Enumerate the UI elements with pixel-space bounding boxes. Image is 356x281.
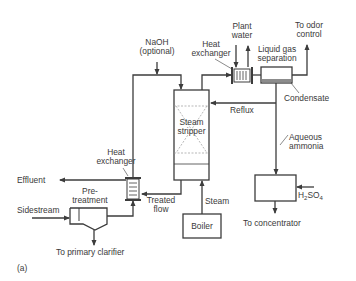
reflux-label: Reflux [230,106,254,115]
odor-control-label: To odor control [289,21,329,39]
pretreatment-label-line2: treatment [68,196,112,205]
plant-water-label: Plant water [225,22,259,40]
treated-flow-line2: flow [144,205,178,214]
plant-water-line2: water [225,31,259,40]
steam-label: Steam [205,197,229,206]
to-concentrator-label: To concentrator [243,219,301,228]
lgs-label-line2: separation [253,54,301,63]
stripper-label-line2: stripper [174,127,209,136]
heat-exchanger-bottom [125,178,141,200]
h2so4-label: H2SO4 [298,191,323,200]
overhead-vapor-line [202,75,231,90]
effluent-label: Effluent [17,176,45,185]
aqueous-ammonia-label: Aqueous ammonia [289,133,323,151]
h2so4-sub-4: 4 [320,195,323,201]
heat-exchanger-top [232,67,252,84]
pretreatment-tank [70,208,107,230]
heat-exchanger-bottom-label: Heat exchanger [95,148,137,166]
figure-label: (a) [17,264,27,273]
condensate-label: Condensate [284,94,329,103]
naoh-label: NaOH (optional) [136,38,178,56]
hx-bottom-label-line2: exchanger [95,157,137,166]
odor-control-line2: control [289,30,329,39]
to-primary-clarifier-label: To primary clarifier [56,248,124,257]
boiler-label: Boiler [183,222,221,231]
hx-top-label-line2: exchanger [190,49,232,58]
heat-exchanger-top-label: Heat exchanger [190,40,232,58]
acid-absorption-tank [255,175,296,201]
treated-flow-label: Treated flow [144,196,178,214]
treated-flow-line [142,180,181,194]
naoh-label-line2: (optional) [136,47,178,56]
liquid-gas-separation-label: Liquid gas separation [253,45,301,63]
steam-stripper-label: Steam stripper [174,118,209,136]
pretreatment-label: Pre- treatment [68,187,112,205]
h2so4-so: SO [307,190,319,200]
aqueous-ammonia-line2: ammonia [289,142,323,151]
sidestream-label: Sidestream [17,206,59,215]
